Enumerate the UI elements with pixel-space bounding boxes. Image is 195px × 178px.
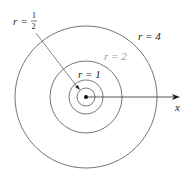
concentric-circles-diagram: r = 1 2 r = 1 r = 2 r = 4 x: [0, 0, 195, 178]
x-axis-label: x: [174, 101, 180, 113]
r-half-label-num: 1: [32, 11, 36, 20]
r-half-leader-arrowhead-icon: [75, 85, 80, 90]
r-half-label-den: 2: [32, 22, 36, 31]
r-4-label: r = 4: [138, 30, 161, 42]
r-half-leader-line: [36, 33, 78, 88]
r-half-label-var: r: [13, 15, 18, 27]
origin-dot: [84, 95, 88, 99]
r-half-label-eq: =: [21, 15, 27, 27]
r-1-label: r = 1: [78, 68, 101, 80]
r-2-label: r = 2: [104, 50, 127, 62]
